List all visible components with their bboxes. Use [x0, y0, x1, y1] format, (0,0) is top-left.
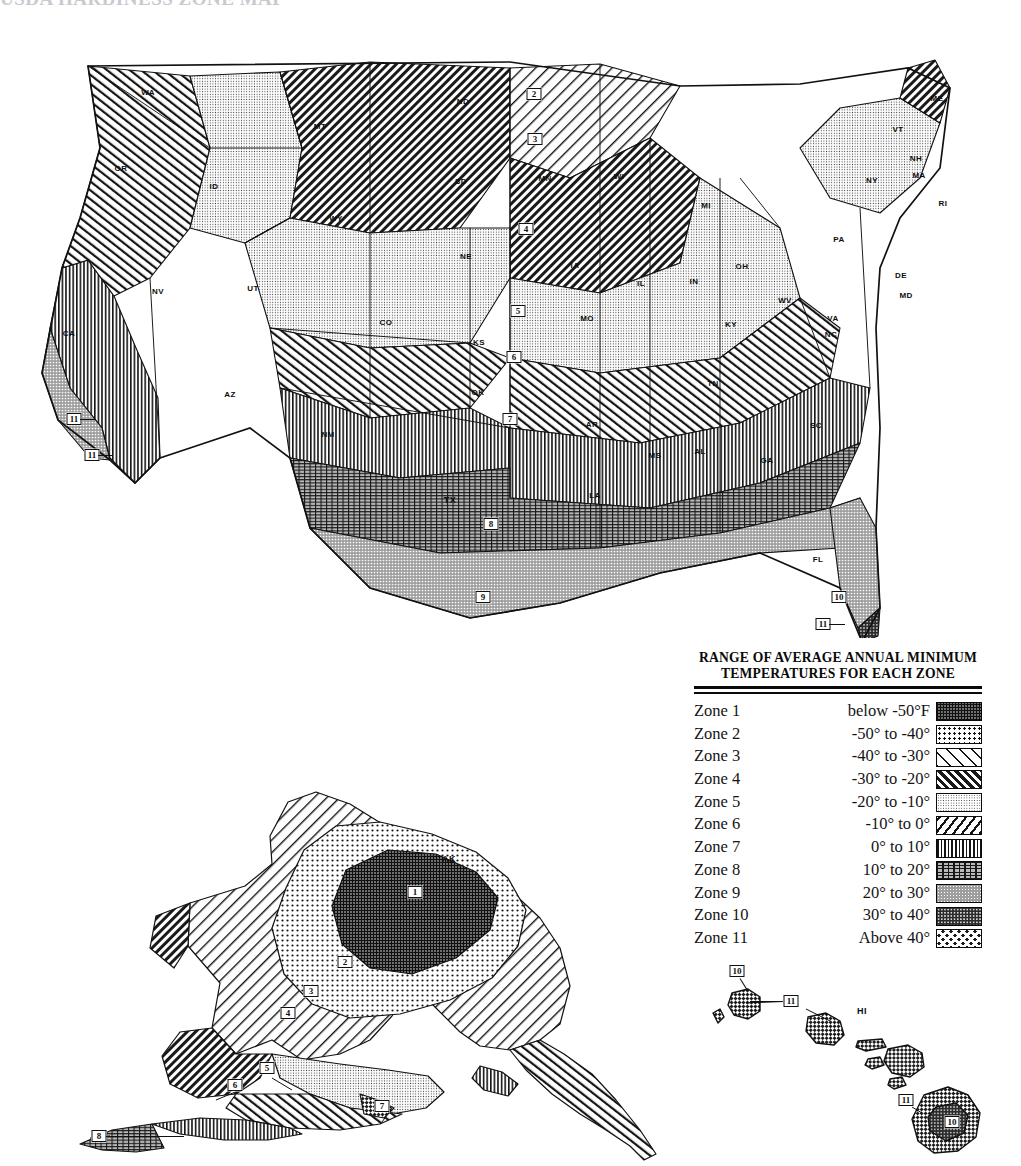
hi-zone-marker-10-hawaii: 10 — [945, 1116, 960, 1128]
ak-leader-8 — [106, 1136, 184, 1137]
legend-zone-label: Zone 4 — [694, 768, 788, 791]
hi-zone-marker-11-oahu: 11 — [784, 995, 799, 1007]
legend-zone-range: -20° to -10° — [788, 790, 930, 813]
legend-zone-range: -50° to -40° — [788, 722, 930, 745]
legend-zone-label: Zone 3 — [694, 745, 788, 768]
ak-zone-marker-2: 2 — [338, 956, 353, 968]
legend-zone-range: -30° to -20° — [788, 768, 930, 791]
hi-leader-11-oahu-left — [750, 1001, 782, 1002]
legend-row-zone-5: Zone 5 -20° to -10° — [694, 790, 982, 813]
hi-zone-marker-10-kauai: 10 — [730, 965, 745, 977]
legend-title: RANGE OF AVERAGE ANNUAL MINIMUM TEMPERAT… — [694, 650, 982, 682]
legend-swatch-zone-9 — [936, 884, 982, 903]
legend-row-zone-11: Zone 11 Above 40° — [694, 927, 982, 950]
ak-zone-marker-5: 5 — [260, 1062, 275, 1074]
legend-zone-range: 10° to 20° — [788, 859, 930, 882]
legend-zone-label: Zone 8 — [694, 859, 788, 882]
conus-map — [40, 28, 970, 638]
legend-zone-range: 20° to 30° — [788, 881, 930, 904]
legend-table: Zone 1 below -50°F Zone 2 -50° to -40° Z… — [694, 700, 982, 950]
legend-rule-thin — [694, 692, 982, 694]
zone-marker-6: 6 — [507, 351, 522, 363]
legend-row-zone-3: Zone 3 -40° to -30° — [694, 745, 982, 768]
zone-marker-7: 7 — [503, 413, 518, 425]
legend-zone-range: -40° to -30° — [788, 745, 930, 768]
legend-zone-label: Zone 1 — [694, 700, 788, 723]
hawaii-map — [690, 955, 1020, 1160]
legend-swatch-zone-3 — [936, 748, 982, 767]
legend-swatch-zone-2 — [936, 725, 982, 744]
legend-swatch-zone-7 — [936, 839, 982, 858]
legend-zone-label: Zone 11 — [694, 927, 788, 950]
legend-rule-thick — [694, 686, 982, 689]
legend-swatch-zone-1 — [936, 702, 982, 721]
legend-row-zone-8: Zone 8 10° to 20° — [694, 859, 982, 882]
legend-row-zone-4: Zone 4 -30° to -20° — [694, 768, 982, 791]
legend-zone-label: Zone 7 — [694, 836, 788, 859]
legend-swatch-zone-10 — [936, 907, 982, 926]
hi-zone-marker-11-hawaii: 11 — [899, 1094, 914, 1106]
alaska-map — [40, 778, 700, 1166]
zone-marker-8: 8 — [484, 518, 499, 530]
ak-zone-marker-6: 6 — [228, 1079, 243, 1091]
zone-marker-5: 5 — [511, 305, 526, 317]
legend-zone-label: Zone 10 — [694, 904, 788, 927]
legend-swatch-zone-8 — [936, 861, 982, 880]
legend-zone-range: 0° to 10° — [788, 836, 930, 859]
legend-zone-range: Above 40° — [788, 927, 930, 950]
ak-zone-marker-4: 4 — [281, 1007, 296, 1019]
legend-zone-range: 30° to 40° — [788, 904, 930, 927]
legend-row-zone-7: Zone 7 0° to 10° — [694, 836, 982, 859]
legend-title-line1: RANGE OF AVERAGE ANNUAL MINIMUM — [694, 650, 982, 666]
zone-marker-4: 4 — [519, 223, 534, 235]
legend-zone-label: Zone 5 — [694, 790, 788, 813]
legend-swatch-zone-5 — [936, 793, 982, 812]
legend-zone-label: Zone 9 — [694, 881, 788, 904]
legend-zone-label: Zone 2 — [694, 722, 788, 745]
legend-row-zone-1: Zone 1 below -50°F — [694, 700, 982, 723]
legend-panel: RANGE OF AVERAGE ANNUAL MINIMUM TEMPERAT… — [694, 650, 982, 949]
legend-zone-range: -10° to 0° — [788, 813, 930, 836]
legend-title-line2: TEMPERATURES FOR EACH ZONE — [694, 666, 982, 682]
legend-swatch-zone-6 — [936, 816, 982, 835]
zone-marker-2: 2 — [527, 88, 542, 100]
zone-marker-10-fl: 10 — [832, 591, 847, 603]
legend-swatch-zone-11 — [936, 929, 982, 948]
leader-line-ca-south — [98, 455, 112, 456]
zone-marker-3: 3 — [528, 133, 543, 145]
ak-zone-marker-1: 1 — [408, 886, 423, 898]
ak-zone-marker-7: 7 — [375, 1100, 390, 1112]
leader-line-fl — [829, 624, 845, 625]
page-title-clipped: USDA HARDINESS ZONE MAP — [0, 0, 420, 6]
leader-line-ca-north — [80, 419, 96, 420]
ak-zone-marker-8: 8 — [92, 1130, 107, 1142]
legend-row-zone-10: Zone 10 30° to 40° — [694, 904, 982, 927]
legend-row-zone-6: Zone 6 -10° to 0° — [694, 813, 982, 836]
legend-swatch-zone-4 — [936, 770, 982, 789]
legend-zone-range: below -50°F — [788, 700, 930, 723]
ak-zone-marker-3: 3 — [304, 985, 319, 997]
legend-row-zone-2: Zone 2 -50° to -40° — [694, 722, 982, 745]
zone-marker-9: 9 — [476, 591, 491, 603]
legend-row-zone-9: Zone 9 20° to 30° — [694, 881, 982, 904]
legend-zone-label: Zone 6 — [694, 813, 788, 836]
